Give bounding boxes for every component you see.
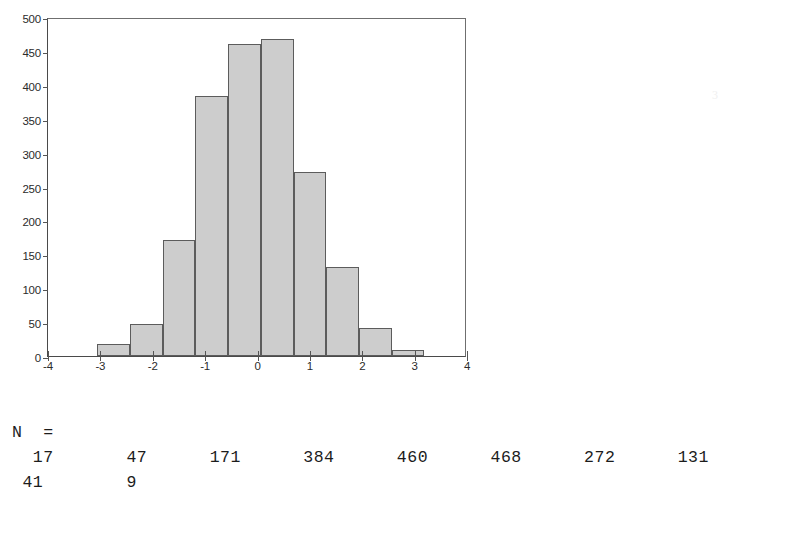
n-counts-row-1: 17 47 171 384 460 468 272 131: [12, 445, 798, 470]
y-axis-tick-label: 100: [22, 284, 41, 296]
y-axis-tick-label: 150: [22, 250, 41, 262]
y-axis-tick: [43, 121, 48, 122]
y-axis-tick: [43, 189, 48, 190]
x-axis-tick-label: 2: [359, 360, 365, 372]
y-axis-tick: [43, 290, 48, 291]
x-axis-tick-label: 3: [412, 360, 418, 372]
x-axis-tick-label: 1: [307, 360, 313, 372]
plot-area: 050100150200250300350400450500 -4-3-2-10…: [47, 18, 466, 357]
sample-size-block: N = 17 47 171 384 460 468 272 131 41 9: [12, 420, 798, 495]
scan-artifact-glyph: 3: [712, 88, 718, 103]
y-axis-tick: [43, 19, 48, 20]
y-axis-tick-label: 300: [22, 149, 41, 161]
y-axis-tick-label: 500: [22, 13, 41, 25]
y-axis-tick: [43, 53, 48, 54]
y-axis-tick: [43, 87, 48, 88]
x-axis-tick-label: -1: [200, 360, 210, 372]
y-axis-tick-label: 400: [22, 81, 41, 93]
y-axis-tick-label: 250: [22, 183, 41, 195]
y-axis: 050100150200250300350400450500: [48, 19, 465, 356]
x-axis-tick-label: -4: [43, 360, 53, 372]
y-axis-tick: [43, 256, 48, 257]
histogram-figure: 050100150200250300350400450500 -4-3-2-10…: [0, 0, 500, 400]
y-axis-tick-label: 0: [35, 352, 41, 364]
n-counts-row-2: 41 9: [12, 470, 798, 495]
y-axis-tick: [43, 155, 48, 156]
n-equals-label: N =: [12, 420, 798, 445]
y-axis-tick-label: 350: [22, 115, 41, 127]
x-axis-tick-label: -3: [95, 360, 105, 372]
x-axis-tick-label: 0: [254, 360, 260, 372]
y-axis-tick-label: 50: [29, 318, 41, 330]
x-axis-tick-label: 4: [464, 360, 470, 372]
y-axis-tick: [43, 324, 48, 325]
y-axis-tick: [43, 222, 48, 223]
y-axis-tick-label: 200: [22, 216, 41, 228]
x-axis-tick-label: -2: [148, 360, 158, 372]
y-axis-tick-label: 450: [22, 47, 41, 59]
